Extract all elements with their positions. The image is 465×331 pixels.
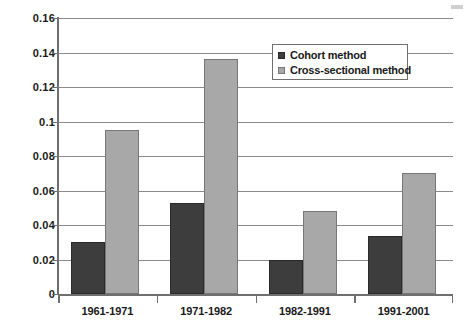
bar-1971-1982-cohort bbox=[170, 203, 204, 294]
bar-chart: 00.020.040.060.080.10.120.140.16 1961-19… bbox=[0, 0, 465, 331]
y-tick-label: 0.04 bbox=[3, 219, 55, 231]
y-tick-label: 0.06 bbox=[3, 185, 55, 197]
x-tick-label-1961-1971: 1961-1971 bbox=[82, 305, 134, 317]
bar-1971-1982-cross-sectional bbox=[204, 59, 238, 294]
y-tick-label: 0.14 bbox=[3, 47, 55, 59]
bar-1961-1971-cross-sectional bbox=[105, 130, 139, 294]
x-tick-label-1971-1982: 1971-1982 bbox=[180, 305, 232, 317]
scan-artifact bbox=[451, 5, 463, 9]
x-tick-mark bbox=[354, 294, 356, 303]
x-tick-mark bbox=[58, 294, 60, 303]
x-axis-labels: 1961-19711971-19821982-19911991-2001 bbox=[58, 305, 453, 325]
x-tick-mark bbox=[157, 294, 159, 303]
y-tick-label: 0.02 bbox=[3, 254, 55, 266]
y-tick-label: 0.12 bbox=[3, 81, 55, 93]
bar-1991-2001-cohort bbox=[368, 236, 402, 294]
legend-item-cross-sectional: Cross-sectional method bbox=[278, 63, 402, 77]
y-tick-label: 0.1 bbox=[3, 116, 55, 128]
legend-swatch-cohort-icon bbox=[278, 52, 285, 59]
bar-1982-1991-cohort bbox=[269, 260, 303, 295]
x-tick-label-1991-2001: 1991-2001 bbox=[378, 305, 430, 317]
x-axis-ticks bbox=[58, 294, 453, 303]
bar-1991-2001-cross-sectional bbox=[402, 173, 436, 294]
y-tick-label: 0.08 bbox=[3, 150, 55, 162]
chart-legend: Cohort method Cross-sectional method bbox=[272, 44, 408, 80]
gridline bbox=[58, 122, 453, 123]
y-tick-label: 0 bbox=[3, 288, 55, 300]
bar-1982-1991-cross-sectional bbox=[303, 211, 337, 294]
y-tick-label: 0.16 bbox=[3, 12, 55, 24]
legend-item-cohort: Cohort method bbox=[278, 48, 402, 62]
y-axis-labels: 00.020.040.060.080.10.120.140.16 bbox=[0, 18, 55, 294]
x-tick-label-1982-1991: 1982-1991 bbox=[279, 305, 331, 317]
gridline bbox=[58, 87, 453, 88]
x-tick-mark bbox=[452, 294, 454, 303]
legend-label-cross-sectional: Cross-sectional method bbox=[290, 64, 411, 76]
legend-swatch-cross-sectional-icon bbox=[278, 67, 285, 74]
gridline bbox=[58, 18, 453, 19]
legend-label-cohort: Cohort method bbox=[290, 49, 366, 61]
x-tick-mark bbox=[256, 294, 258, 303]
bar-1961-1971-cohort bbox=[71, 242, 105, 294]
